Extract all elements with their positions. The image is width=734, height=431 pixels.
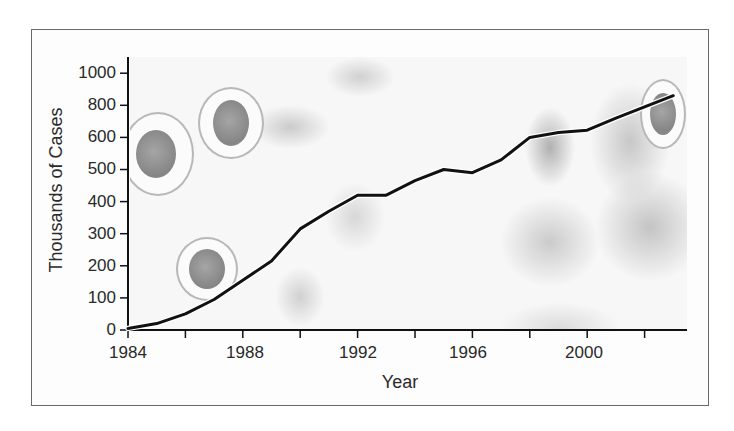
x-tick-label: 1996 bbox=[438, 344, 498, 362]
cases-line bbox=[128, 96, 673, 329]
x-tick-label: 1984 bbox=[98, 344, 158, 362]
x-tick-label: 2000 bbox=[554, 344, 614, 362]
x-tick-label: 1992 bbox=[328, 344, 388, 362]
y-tick-label: 1000 bbox=[56, 64, 116, 82]
x-tick-label: 1988 bbox=[215, 344, 275, 362]
y-tick-label: 100 bbox=[56, 289, 116, 307]
y-tick-label: 0 bbox=[56, 321, 116, 339]
y-ticks bbox=[120, 73, 128, 330]
y-axis-title: Thousands of Cases bbox=[46, 107, 67, 272]
x-axis-title: Year bbox=[370, 372, 430, 393]
x-ticks bbox=[128, 330, 645, 338]
